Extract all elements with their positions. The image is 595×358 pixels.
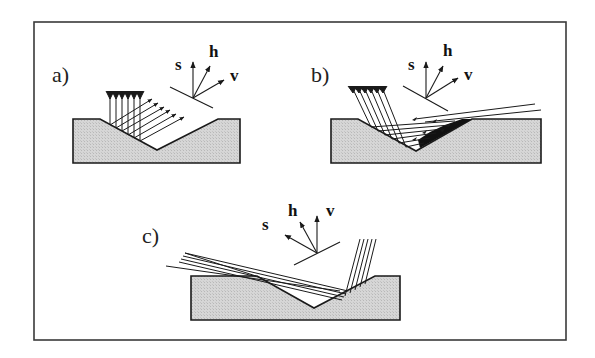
panel-b: b) (311, 41, 541, 163)
h-label-b: h (443, 41, 453, 60)
panel-b-label: b) (311, 62, 329, 87)
panel-a: a) s h v (52, 42, 240, 163)
axes-b: s h v (403, 41, 473, 111)
panel-c: c) s h v (142, 201, 400, 320)
groove-block-b (331, 119, 541, 163)
axes-a: s h v (170, 42, 239, 108)
s-label-b: s (408, 55, 415, 74)
axes-c: s h v (262, 201, 340, 265)
h-label-c: h (288, 201, 298, 220)
v-label-b: v (464, 65, 473, 84)
figure-frame (34, 22, 566, 340)
h-label-a: h (209, 42, 219, 61)
panel-c-label: c) (142, 223, 159, 248)
v-label-c: v (326, 201, 335, 220)
s-label-a: s (175, 55, 182, 74)
v-label-a: v (230, 66, 239, 85)
panel-a-label: a) (52, 62, 69, 87)
diagram-canvas: a) s h v (0, 0, 595, 358)
s-label-c: s (262, 215, 269, 234)
